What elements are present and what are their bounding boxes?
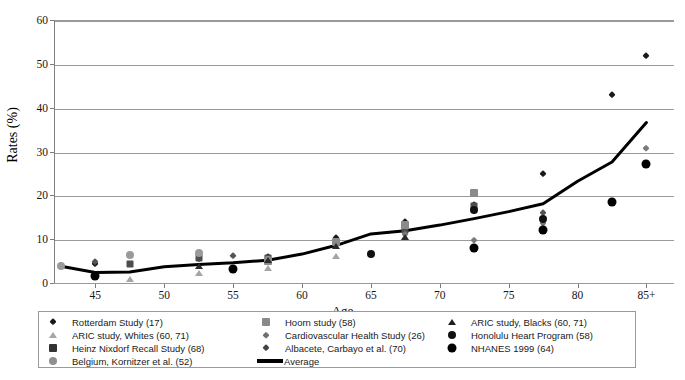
legend-item[interactable]: Honolulu Heart Program (58)	[443, 329, 633, 342]
legend-item[interactable]: Cardiovascular Health Study (26)	[257, 329, 447, 342]
data-point	[401, 234, 409, 240]
legend-label: Heinz Nixdorf Recall Study (68)	[72, 342, 205, 355]
legend-marker-circle	[49, 357, 57, 365]
chart-figure: 0102030405060 455055606570758085+ Rates …	[0, 0, 685, 380]
legend-item[interactable]: ARIC study, Whites (60, 71)	[44, 329, 259, 342]
data-point	[126, 276, 134, 282]
data-point	[470, 243, 479, 252]
data-point	[332, 253, 340, 259]
legend-label: Rotterdam Study (17)	[72, 316, 163, 329]
legend-label: Albacete, Carbayo et al. (70)	[285, 342, 406, 355]
data-point	[332, 243, 340, 249]
legend-item[interactable]: Hoorn study (58)	[257, 316, 447, 329]
legend-marker-triangle	[448, 319, 456, 325]
legend-item[interactable]: Rotterdam Study (17)	[44, 316, 259, 329]
legend-marker-diamond	[263, 332, 270, 339]
legend-label: Belgium, Kornitzer et al. (52)	[72, 355, 192, 368]
data-point	[608, 198, 617, 207]
data-point	[401, 221, 409, 229]
data-point	[195, 249, 203, 257]
chart-legend: Rotterdam Study (17)ARIC study, Whites (…	[38, 311, 636, 368]
legend-label: Honolulu Heart Program (58)	[471, 329, 593, 342]
data-point	[195, 263, 203, 269]
data-point	[91, 271, 100, 280]
legend-label: ARIC study, Whites (60, 71)	[72, 329, 189, 342]
data-point	[367, 250, 375, 258]
data-point	[264, 265, 272, 271]
data-point	[470, 189, 478, 197]
data-point	[126, 251, 134, 259]
legend-marker-diamond	[49, 318, 57, 326]
legend-item[interactable]: Belgium, Kornitzer et al. (52)	[44, 355, 259, 368]
legend-marker-triangle	[49, 332, 57, 338]
legend-label: Cardiovascular Health Study (26)	[285, 329, 425, 342]
legend-marker-circle	[448, 344, 457, 353]
legend-column-3: ARIC study, Blacks (60, 71)Honolulu Hear…	[443, 316, 633, 355]
legend-marker-square	[49, 344, 57, 352]
legend-item[interactable]: Albacete, Carbayo et al. (70)	[257, 342, 447, 355]
legend-column-2: Hoorn study (58)Cardiovascular Health St…	[257, 316, 447, 368]
average-line-path	[61, 123, 647, 273]
data-point	[264, 257, 272, 263]
legend-item[interactable]: ARIC study, Blacks (60, 71)	[443, 316, 633, 329]
legend-marker-diamond	[262, 344, 270, 352]
legend-item[interactable]: Heinz Nixdorf Recall Study (68)	[44, 342, 259, 355]
legend-item[interactable]: NHANES 1999 (64)	[443, 342, 633, 355]
legend-label: Average	[284, 355, 319, 368]
data-point	[57, 262, 65, 270]
data-point	[229, 264, 238, 273]
legend-item[interactable]: Average	[257, 355, 447, 368]
data-point	[195, 270, 203, 276]
data-point	[470, 206, 478, 214]
data-point	[539, 215, 547, 223]
legend-label: Hoorn study (58)	[285, 316, 356, 329]
data-point	[539, 225, 548, 234]
data-point	[126, 260, 133, 267]
legend-column-1: Rotterdam Study (17)ARIC study, Whites (…	[44, 316, 259, 368]
data-point	[642, 160, 651, 169]
legend-label: ARIC study, Blacks (60, 71)	[471, 316, 587, 329]
legend-marker-line	[257, 359, 283, 363]
legend-label: NHANES 1999 (64)	[471, 342, 554, 355]
legend-marker-circle	[448, 331, 456, 339]
legend-marker-square	[262, 318, 270, 326]
